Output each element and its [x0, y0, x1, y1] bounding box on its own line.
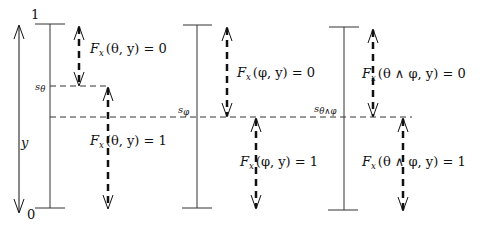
label-theta-zero: Fx(θ, y) = 0	[89, 41, 167, 58]
axis-bottom-label: 0	[27, 207, 35, 222]
y-axis-arrow	[14, 25, 24, 213]
axis-variable-label: y	[20, 135, 29, 150]
threshold-label-theta: sθ	[35, 81, 45, 94]
threshold-diagram: 1 0 y sθ Fx(θ, y) = 0 Fx(θ, y) = 1 sφ	[0, 0, 480, 226]
arrow-phi-upper	[222, 27, 232, 117]
axis-top-label: 1	[31, 7, 39, 22]
label-theta-one: Fx(θ, y) = 1	[89, 133, 167, 150]
label-theta-and-phi-zero: Fx(θ ∧ φ, y) = 0	[361, 66, 466, 83]
threshold-label-theta-and-phi: sθ∧φ	[314, 103, 336, 116]
scale-theta-and-phi	[328, 27, 359, 210]
label-phi-zero: Fx(φ, y) = 0	[236, 65, 315, 82]
label-phi-one: Fx(φ, y) = 1	[239, 154, 318, 171]
label-theta-and-phi-one: Fx(θ ∧ φ, y) = 1	[361, 154, 466, 171]
scale-theta	[35, 24, 65, 208]
arrow-theta-lower	[103, 87, 113, 209]
threshold-label-phi: sφ	[178, 104, 189, 117]
arrow-theta-upper	[74, 26, 84, 86]
